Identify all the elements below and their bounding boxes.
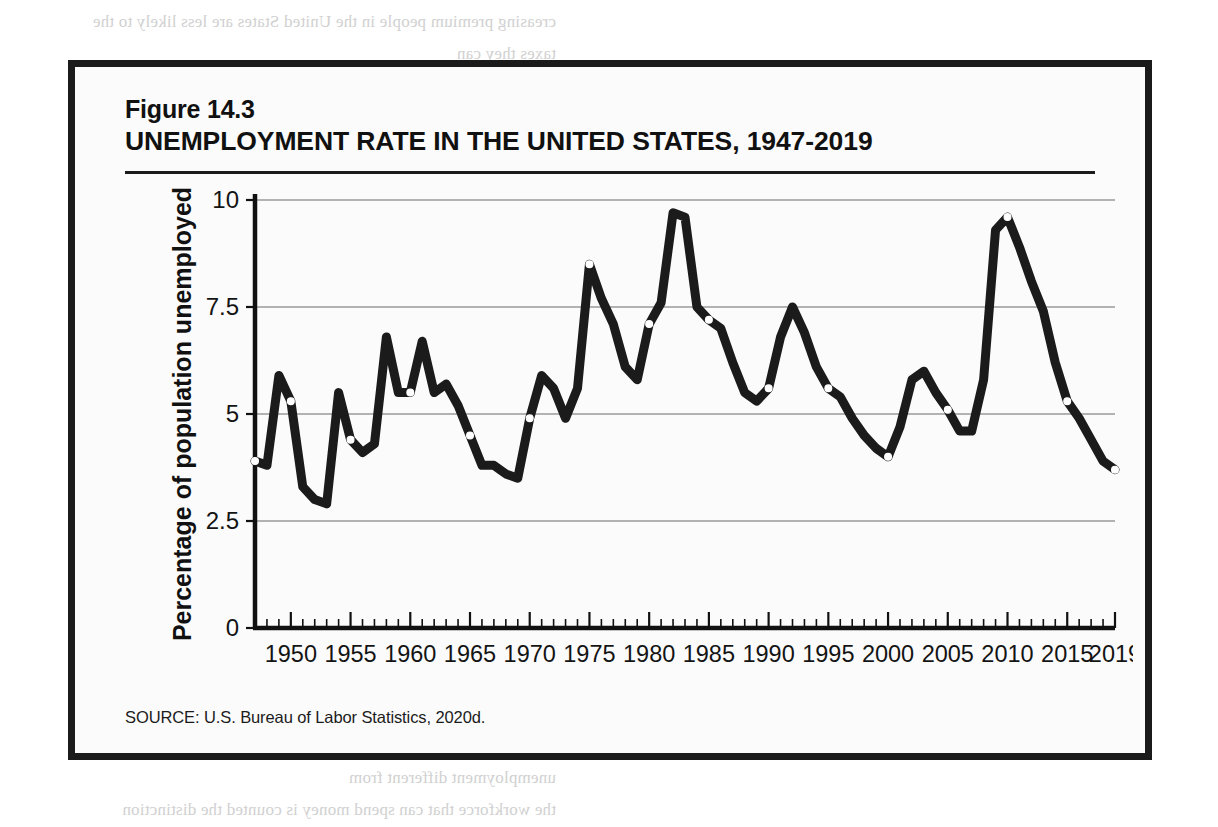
unemployment-line-chart: 02.557.510 19501955196019651970197519801… (103, 182, 1133, 702)
data-point-marker (765, 385, 772, 392)
data-point-marker (944, 406, 951, 413)
data-point-marker (885, 453, 892, 460)
x-tick-label: 1965 (444, 641, 496, 667)
data-point-marker (252, 458, 259, 465)
figure-box: Figure 14.3 UNEMPLOYMENT RATE IN THE UNI… (68, 60, 1152, 760)
data-point-marker (825, 385, 832, 392)
x-tick-label: 1995 (802, 641, 854, 667)
data-point-marker (646, 321, 653, 328)
x-tick-label: 1985 (683, 641, 735, 667)
unemployment-line (255, 213, 1115, 504)
y-axis-title: Percentage of population unemployed (168, 187, 196, 641)
x-tick-label: 1980 (623, 641, 675, 667)
data-point-marker (1064, 398, 1071, 405)
y-tick-label: 7.5 (206, 293, 239, 320)
source-note: SOURCE: U.S. Bureau of Labor Statistics,… (125, 708, 485, 727)
x-tick-label: 1970 (504, 641, 556, 667)
x-tick-label: 1975 (563, 641, 615, 667)
data-point-marker (705, 316, 712, 323)
figure-number: Figure 14.3 (125, 95, 1117, 124)
data-point-marker (1004, 214, 1011, 221)
y-axis-title-text: Percentage of population unemployed (168, 187, 196, 641)
x-tick-label: 2010 (981, 641, 1033, 667)
title-divider (125, 171, 1095, 174)
y-tick-labels: 02.557.510 (206, 186, 239, 641)
data-line-unemployment-rate (255, 213, 1115, 504)
data-point-marker (287, 398, 294, 405)
y-tick-label: 10 (212, 186, 239, 213)
y-tick-label: 0 (226, 614, 239, 641)
x-tick-labels: 1950195519601965197019751980198519901995… (265, 641, 1133, 667)
x-tick-label: 1955 (324, 641, 376, 667)
x-tick-label: 2000 (862, 641, 914, 667)
figure-inner: Figure 14.3 UNEMPLOYMENT RATE IN THE UNI… (75, 67, 1145, 753)
data-point-marker (586, 261, 593, 268)
y-tick-label: 5 (226, 400, 239, 427)
data-point-marker (407, 389, 414, 396)
data-point-marker (526, 415, 533, 422)
y-tick-label: 2.5 (206, 507, 239, 534)
x-tick-label: 2005 (922, 641, 974, 667)
data-point-marker (1112, 466, 1119, 473)
x-tick-label: 2015 (1041, 641, 1093, 667)
x-tick-label: 1960 (384, 641, 436, 667)
chart-area: 02.557.510 19501955196019651970197519801… (103, 182, 1117, 702)
x-tick-label: 1990 (742, 641, 794, 667)
figure-title: UNEMPLOYMENT RATE IN THE UNITED STATES, … (125, 126, 1117, 157)
x-tick-label: 2019 (1089, 641, 1133, 667)
x-major-ticks (291, 612, 1115, 628)
x-tick-label: 1950 (265, 641, 317, 667)
data-point-marker (467, 432, 474, 439)
data-point-marker (347, 436, 354, 443)
